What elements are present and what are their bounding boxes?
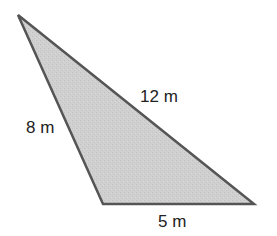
side-label-left: 8 m	[26, 118, 54, 137]
triangle-diagram: 8 m 12 m 5 m	[0, 0, 277, 236]
triangle-shape	[18, 15, 254, 204]
side-label-hypotenuse: 12 m	[140, 87, 178, 106]
side-label-base: 5 m	[158, 212, 186, 231]
